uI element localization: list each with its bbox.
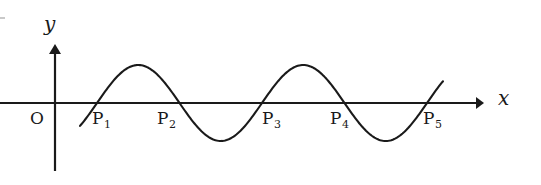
sine-curve-figure: y x O P1 P2 P3 P4 P5 [0,0,541,185]
x-axis-label: x [498,88,509,108]
x-axis-arrowhead [476,97,484,109]
point-label-p4-base: P [330,108,341,128]
figure-canvas [0,0,541,185]
point-label-p4-subscript: 4 [342,118,349,131]
point-label-p3-subscript: 3 [274,118,281,131]
point-label-p2-subscript: 2 [169,118,176,131]
point-label-p5-base: P [423,108,434,128]
y-axis-arrowhead [49,44,61,54]
point-label-p1-subscript: 1 [104,118,111,131]
point-label-p3: P3 [262,110,280,127]
point-label-p1-base: P [92,108,103,128]
point-label-p4: P4 [330,110,348,127]
point-label-p5: P5 [423,110,441,127]
point-label-p5-subscript: 5 [435,118,442,131]
origin-label: O [30,110,44,127]
y-axis-label: y [44,14,55,34]
point-label-p3-base: P [262,108,273,128]
point-label-p2-base: P [157,108,168,128]
point-label-p2: P2 [157,110,175,127]
point-label-p1: P1 [92,110,110,127]
